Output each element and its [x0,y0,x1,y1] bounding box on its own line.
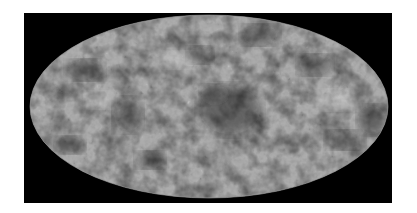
sky-map [0,0,417,213]
map-ellipse [30,15,388,198]
